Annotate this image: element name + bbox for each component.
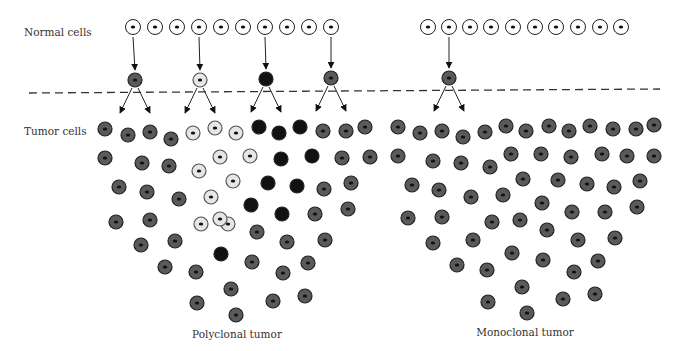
nucleus xyxy=(489,25,493,28)
nucleus xyxy=(131,25,135,28)
tumor-cell-gray xyxy=(647,149,661,163)
nucleus xyxy=(255,230,259,233)
tumor-cell-gray xyxy=(513,213,527,227)
normal-cell xyxy=(571,20,586,35)
nucleus xyxy=(133,78,137,81)
tumor-cell-gray xyxy=(464,190,478,204)
arrow xyxy=(199,37,200,70)
nucleus xyxy=(455,263,459,266)
tumor-cell-gray xyxy=(172,192,186,206)
tumor-cell-light xyxy=(192,164,206,178)
normal-cell xyxy=(324,20,339,35)
tumor-cell-gray xyxy=(535,196,549,210)
nucleus xyxy=(250,260,254,263)
tumor-cell-light xyxy=(229,126,243,140)
arrows xyxy=(120,37,464,113)
nucleus xyxy=(198,78,202,81)
tumor-cell-gray xyxy=(245,255,259,269)
tumor-cells-label: Tumor cells xyxy=(24,125,87,137)
nucleus xyxy=(504,124,508,127)
normal-cell xyxy=(258,20,273,35)
tumor-cell-gray xyxy=(481,295,495,309)
tumor-cell-gray xyxy=(401,211,415,225)
nucleus xyxy=(103,156,107,159)
nucleus xyxy=(576,25,580,28)
nucleus xyxy=(167,164,171,167)
tumor-cell-gray xyxy=(432,183,446,197)
nucleus xyxy=(447,25,451,28)
nucleus xyxy=(406,216,410,219)
tumor-cell-gray xyxy=(633,174,647,188)
tumor-cell-gray xyxy=(143,213,157,227)
tumor-cell-dark xyxy=(252,120,266,134)
nucleus xyxy=(175,25,179,28)
monoclonal-tumor-label: Monoclonal tumor xyxy=(476,326,575,338)
tumor-cell-gray xyxy=(98,122,112,136)
normal-cell xyxy=(484,20,499,35)
nucleus xyxy=(306,261,310,264)
nucleus xyxy=(545,228,549,231)
nucleus xyxy=(440,129,444,132)
tumor-cell-gray xyxy=(168,234,182,248)
nucleus xyxy=(396,125,400,128)
tumor-cell-gray xyxy=(562,124,576,138)
nucleus xyxy=(329,76,333,79)
nucleus xyxy=(612,185,616,188)
nucleus xyxy=(547,124,551,127)
tumor-cell-gray xyxy=(391,149,405,163)
nucleus xyxy=(611,127,615,130)
tumor-cell-gray xyxy=(556,292,570,306)
tumor-cell-gray xyxy=(620,149,634,163)
nucleus xyxy=(588,124,592,127)
tumor-cell-gray xyxy=(162,159,176,173)
tumor-cell-gray xyxy=(344,176,358,190)
tumor-cell-gray xyxy=(450,258,464,272)
tumor-cell-gray xyxy=(391,120,405,134)
nucleus xyxy=(511,25,515,28)
tumor-cell-gray xyxy=(478,125,492,139)
tumor-cell-light xyxy=(194,217,208,231)
nucleus xyxy=(459,161,463,164)
nucleus xyxy=(469,195,473,198)
transformed-cell-gray xyxy=(324,71,338,85)
nucleus xyxy=(363,125,367,128)
nucleus xyxy=(195,301,199,304)
monoclonal-tumor-cells xyxy=(391,118,661,320)
nucleus xyxy=(635,205,639,208)
nucleus xyxy=(148,130,152,133)
transformed-cell-gray xyxy=(442,71,456,85)
tumor-cell-gray xyxy=(480,263,494,277)
nucleus xyxy=(234,313,238,316)
nucleus xyxy=(281,271,285,274)
nucleus xyxy=(540,201,544,204)
nucleus xyxy=(169,137,173,140)
tumor-cell-gray xyxy=(317,182,331,196)
tumor-cell-dark xyxy=(290,179,304,193)
tumor-cell-gray xyxy=(250,225,264,239)
tumor-cell-dark xyxy=(274,152,288,166)
nucleus xyxy=(349,181,353,184)
tumor-cell-light xyxy=(213,150,227,164)
normal-cell xyxy=(236,20,251,35)
nucleus xyxy=(541,258,545,261)
tumor-cell-gray xyxy=(456,130,470,144)
tumor-cell-gray xyxy=(143,125,157,139)
nucleus xyxy=(525,311,529,314)
tumor-cell-gray xyxy=(647,118,661,132)
nucleus xyxy=(418,131,422,134)
tumor-cell-gray xyxy=(341,202,355,216)
normal-cell xyxy=(126,20,141,35)
tumor-cell-gray xyxy=(121,128,135,142)
polyclonal-tumor-label: Polyclonal tumor xyxy=(192,328,283,340)
nucleus xyxy=(173,239,177,242)
nucleus xyxy=(567,129,571,132)
nucleus xyxy=(322,187,326,190)
nucleus xyxy=(572,270,576,273)
tumor-cell-gray xyxy=(466,233,480,247)
nucleus xyxy=(346,207,350,210)
nucleus xyxy=(303,294,307,297)
nucleus xyxy=(234,131,238,134)
nucleus xyxy=(219,25,223,28)
nucleus xyxy=(368,155,372,158)
nucleus xyxy=(426,25,430,28)
